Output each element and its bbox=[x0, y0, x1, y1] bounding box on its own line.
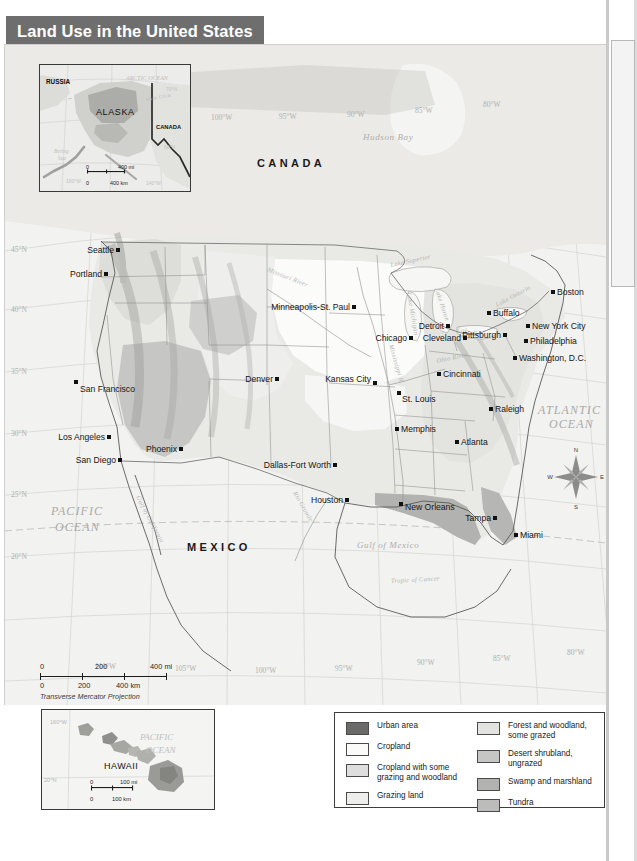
country-label-canada: CANADA bbox=[257, 157, 325, 169]
city-dot bbox=[352, 305, 356, 309]
compass-n: N bbox=[574, 447, 578, 453]
city-dot bbox=[513, 356, 517, 360]
city-label: Houston bbox=[311, 495, 343, 505]
ocean-label-atlantic-2: OCEAN bbox=[549, 417, 594, 431]
ocean-label-pacific: PACIFIC bbox=[50, 504, 103, 518]
city-dot bbox=[104, 272, 108, 276]
svg-text:90°W: 90°W bbox=[417, 658, 435, 667]
city-label: New Orleans bbox=[405, 502, 455, 512]
city-label: Cleveland bbox=[423, 333, 461, 343]
city-label: Denver bbox=[245, 374, 273, 384]
svg-text:0: 0 bbox=[90, 779, 93, 785]
city-dot bbox=[74, 380, 78, 384]
svg-text:0: 0 bbox=[90, 796, 93, 802]
city-label: Los Angeles bbox=[58, 432, 105, 442]
city-dot bbox=[107, 435, 111, 439]
title-banner: Land Use in the United States bbox=[6, 16, 264, 46]
water-label-hudson-bay: Hudson Bay bbox=[362, 132, 413, 142]
legend-column-left: Urban areaCroplandCropland with somegraz… bbox=[335, 721, 473, 807]
city-label: Atlanta bbox=[461, 437, 488, 447]
svg-text:100 km: 100 km bbox=[112, 796, 131, 802]
city-label: Detroit bbox=[419, 321, 445, 331]
legend-item: Tundra bbox=[477, 798, 604, 812]
legend-swatch bbox=[346, 743, 369, 756]
city-marker[interactable]: Pittsburgh bbox=[462, 330, 507, 340]
city-marker[interactable]: Dallas-Fort Worth bbox=[264, 460, 337, 470]
city-label: Chicago bbox=[375, 333, 407, 343]
city-marker[interactable]: Washington, D.C. bbox=[513, 353, 586, 363]
city-marker[interactable]: San Diego bbox=[76, 455, 122, 465]
city-dot bbox=[373, 381, 377, 385]
legend-label: Cropland with somegrazing and woodland bbox=[377, 763, 457, 784]
legend-item: Cropland bbox=[346, 742, 473, 756]
city-dot bbox=[503, 333, 507, 337]
alaska-grat-160w: 160°W bbox=[66, 178, 81, 184]
city-label: Washington, D.C. bbox=[519, 353, 586, 363]
country-label-mexico: MEXICO bbox=[187, 541, 251, 553]
legend-label: Forest and woodland,some grazed bbox=[508, 721, 587, 742]
legend-swatch bbox=[477, 750, 500, 763]
compass-w: W bbox=[547, 474, 553, 480]
city-label: Phoenix bbox=[146, 444, 178, 454]
city-dot bbox=[399, 502, 403, 506]
city-marker[interactable]: Cleveland bbox=[423, 333, 467, 343]
city-dot bbox=[118, 458, 122, 462]
legend-label: Desert shrubland,ungrazed bbox=[508, 749, 573, 770]
city-dot bbox=[493, 516, 497, 520]
alaska-inset-map[interactable]: RUSSIA ALASKA CANADA ARCTIC OCEAN Arctic… bbox=[39, 64, 191, 192]
legend-swatch bbox=[477, 799, 500, 812]
svg-text:100°W: 100°W bbox=[255, 666, 277, 675]
svg-text:85°W: 85°W bbox=[493, 654, 511, 663]
city-dot bbox=[116, 248, 120, 252]
city-marker[interactable]: Cincinnati bbox=[437, 369, 481, 379]
legend-label: Grazing land bbox=[377, 791, 423, 801]
svg-text:80°W: 80°W bbox=[483, 100, 501, 109]
ocean-label-pacific-2: OCEAN bbox=[55, 520, 100, 534]
city-label: San Diego bbox=[76, 455, 116, 465]
svg-text:100°W: 100°W bbox=[211, 113, 233, 122]
svg-text:95°W: 95°W bbox=[279, 112, 297, 121]
city-marker[interactable]: Raleigh bbox=[489, 404, 524, 414]
legend-swatch bbox=[346, 792, 369, 805]
projection-note: Transverse Mercator Projection bbox=[40, 692, 140, 701]
legend-item: Desert shrubland,ungrazed bbox=[477, 749, 604, 770]
city-marker[interactable]: Minneapolis-St. Paul bbox=[271, 302, 356, 312]
city-label: San Francisco bbox=[80, 384, 135, 394]
hawaii-grat-20n: 20°N bbox=[44, 777, 57, 783]
scale-km-200: 200 bbox=[78, 681, 90, 690]
city-dot bbox=[437, 372, 441, 376]
scale-km-400: 400 km bbox=[116, 681, 140, 690]
city-marker[interactable]: Memphis bbox=[395, 424, 436, 434]
city-label: Portland bbox=[70, 269, 102, 279]
city-dot bbox=[455, 440, 459, 444]
scale-mi-400: 400 mi bbox=[150, 662, 172, 671]
city-dot bbox=[524, 339, 528, 343]
hawaii-label-ocean: OCEAN bbox=[146, 745, 176, 755]
city-marker[interactable]: Kansas City bbox=[325, 374, 377, 385]
legend-item: Forest and woodland,some grazed bbox=[477, 721, 604, 742]
compass-s: S bbox=[574, 504, 578, 510]
city-marker[interactable]: New York City bbox=[526, 321, 586, 331]
city-marker[interactable]: New Orleans bbox=[399, 502, 455, 512]
city-label: Boston bbox=[557, 287, 584, 297]
city-label: Memphis bbox=[401, 424, 436, 434]
legend-column-right: Forest and woodland,some grazedDesert sh… bbox=[473, 721, 604, 807]
city-label: Philadelphia bbox=[530, 336, 577, 346]
ocean-label-atlantic: ATLANTIC bbox=[537, 403, 601, 417]
city-dot bbox=[514, 533, 518, 537]
svg-text:400 km: 400 km bbox=[110, 180, 128, 186]
map-legend: Urban areaCroplandCropland with somegraz… bbox=[334, 712, 605, 808]
alaska-label-arctic-ocean: ARCTIC OCEAN bbox=[125, 75, 169, 81]
city-dot bbox=[395, 427, 399, 431]
city-marker[interactable]: Philadelphia bbox=[524, 336, 577, 346]
scale-mi-0: 0 bbox=[40, 662, 44, 671]
city-dot bbox=[345, 498, 349, 502]
svg-text:20°N: 20°N bbox=[11, 552, 27, 561]
alaska-label-bering-sea-2: Sea bbox=[58, 155, 66, 161]
svg-text:400 mi: 400 mi bbox=[118, 164, 134, 170]
legend-swatch bbox=[346, 722, 369, 735]
main-scale-bar: 0 200 400 mi 0 200 400 km bbox=[40, 662, 205, 691]
hawaii-inset-map[interactable]: HAWAII PACIFIC OCEAN 160°W 20°N 0 100 mi… bbox=[41, 709, 215, 810]
city-dot bbox=[409, 336, 413, 340]
city-marker[interactable]: Los Angeles bbox=[58, 432, 111, 442]
